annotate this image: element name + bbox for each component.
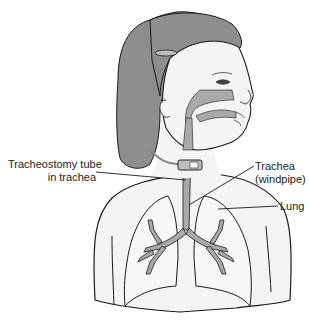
label-tube-line2: in trachea — [8, 171, 96, 184]
torso — [94, 175, 291, 312]
label-trachea-line1: Trachea — [255, 160, 306, 173]
label-trachea: Trachea (windpipe) — [255, 160, 306, 186]
label-trachea-line2: (windpipe) — [255, 173, 306, 186]
hair-clip — [155, 50, 177, 56]
label-lung: Lung — [280, 200, 304, 213]
label-lung-line1: Lung — [280, 200, 304, 213]
label-tube-line1: Tracheostomy tube — [8, 158, 96, 171]
label-tracheostomy-tube: Tracheostomy tube in trachea — [8, 158, 96, 184]
